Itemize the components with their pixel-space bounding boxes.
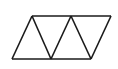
triangle-strip-diagram xyxy=(0,0,118,69)
diagonal-3 xyxy=(71,16,91,59)
diagonal-2 xyxy=(51,16,71,59)
left-edge xyxy=(12,16,32,59)
diagonal-1 xyxy=(32,16,51,59)
right-edge xyxy=(91,16,111,59)
